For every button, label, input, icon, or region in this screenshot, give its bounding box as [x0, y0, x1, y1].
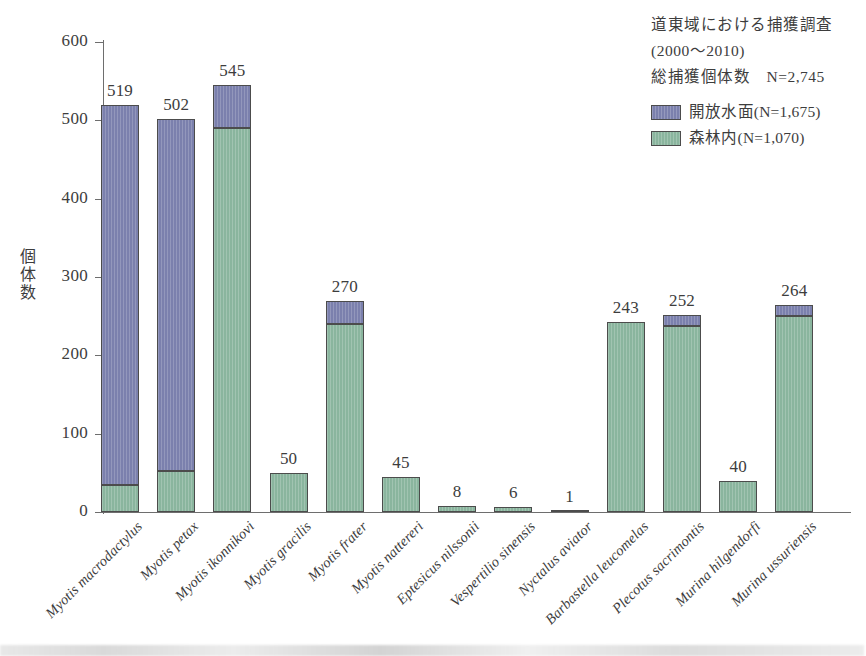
legend-item-label: 森林内(N=1,070) — [689, 125, 805, 151]
bar-value-label: 45 — [364, 453, 438, 473]
x-axis-line — [103, 512, 851, 513]
legend-item[interactable]: 森林内(N=1,070) — [651, 125, 866, 151]
legend-annotation-block: 道東域における捕獲調査 (2000〜2010) 総捕獲個体数 N=2,745 開… — [651, 12, 866, 151]
legend-item[interactable]: 開放水面(N=1,675) — [651, 99, 866, 125]
bar-group[interactable]: 270 — [326, 42, 364, 512]
annotation-line-3: 総捕獲個体数 N=2,745 — [651, 64, 866, 90]
open-water-swatch — [651, 105, 681, 120]
bar-segment-forest[interactable] — [663, 326, 701, 512]
y-axis-tick-label: 300 — [28, 266, 88, 286]
y-axis-tick-label: 100 — [28, 423, 88, 443]
bar-segment-open-water[interactable] — [101, 105, 139, 484]
bar-segment-forest[interactable] — [775, 316, 813, 512]
bar-segment-forest[interactable] — [326, 324, 364, 512]
bar-group[interactable]: 1 — [551, 42, 589, 512]
bar-value-label: 270 — [308, 277, 382, 297]
bar-value-label: 252 — [645, 291, 719, 311]
bar-segment-forest[interactable] — [438, 506, 476, 512]
bar-segment-open-water[interactable] — [326, 301, 364, 325]
bar-segment-forest[interactable] — [101, 485, 139, 512]
y-axis-tick-label: 0 — [28, 501, 88, 521]
bar-segment-forest[interactable] — [551, 510, 589, 512]
x-axis-category-label: Myotis macrodactylus — [42, 518, 146, 622]
bar-value-label: 50 — [252, 449, 326, 469]
bar-segment-open-water[interactable] — [213, 85, 251, 128]
annotation-line-1: 道東域における捕獲調査 — [651, 12, 866, 38]
bar-group[interactable]: 50 — [270, 42, 308, 512]
y-axis-tick-label: 500 — [28, 109, 88, 129]
bar-value-label: 545 — [195, 61, 269, 81]
bar-group[interactable]: 545 — [213, 42, 251, 512]
bar-segment-open-water[interactable] — [663, 315, 701, 326]
bar-segment-forest[interactable] — [213, 128, 251, 512]
y-axis-tick-label: 200 — [28, 344, 88, 364]
bar-value-label: 40 — [701, 457, 775, 477]
bar-segment-forest[interactable] — [607, 322, 645, 512]
bar-group[interactable]: 8 — [438, 42, 476, 512]
legend: 開放水面(N=1,675)森林内(N=1,070) — [651, 99, 866, 151]
bar-segment-forest[interactable] — [382, 477, 420, 512]
annotation-line-2: (2000〜2010) — [651, 38, 866, 64]
bar-group[interactable]: 6 — [494, 42, 532, 512]
bar-segment-open-water[interactable] — [157, 119, 195, 472]
bar-segment-open-water[interactable] — [775, 305, 813, 316]
bar-segment-forest[interactable] — [719, 481, 757, 512]
forest-swatch — [651, 131, 681, 146]
bar-segment-forest[interactable] — [494, 507, 532, 512]
bar-value-label: 1 — [533, 487, 607, 507]
y-axis-tick-label: 600 — [28, 31, 88, 51]
bar-group[interactable]: 243 — [607, 42, 645, 512]
bar-group[interactable]: 45 — [382, 42, 420, 512]
y-axis-tick-label: 400 — [28, 188, 88, 208]
legend-item-label: 開放水面(N=1,675) — [689, 99, 821, 125]
bar-segment-forest[interactable] — [270, 473, 308, 512]
bar-group[interactable]: 502 — [157, 42, 195, 512]
bar-value-label: 264 — [757, 281, 831, 301]
page-scan-artifact — [0, 645, 864, 656]
bar-segment-forest[interactable] — [157, 471, 195, 512]
bar-group[interactable]: 519 — [101, 42, 139, 512]
bar-value-label: 502 — [139, 95, 213, 115]
y-axis-tick — [95, 512, 103, 513]
x-axis-category-label: Barbastella leucomelas — [542, 518, 652, 628]
